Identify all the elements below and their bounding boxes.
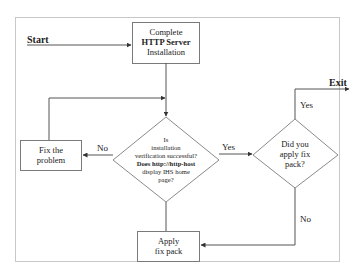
fixpack-decision-node: Did you apply fix pack? <box>268 135 322 175</box>
node-text-line: problem <box>37 156 65 166</box>
flowchart-canvas: Start Exit Complete HTTP Server Installa… <box>0 0 364 280</box>
apply-fixpack-node: Apply fix pack <box>137 231 200 262</box>
fix-problem-node: Fix the problem <box>20 140 82 171</box>
node-text-line: verification successful? <box>135 152 197 160</box>
verify-no-label: No <box>97 144 108 153</box>
node-text-line: Installation <box>147 48 185 58</box>
verify-decision-node: Is installation verification successful?… <box>113 128 219 192</box>
start-label: Start <box>27 35 49 45</box>
node-text-line: fix pack <box>155 247 183 257</box>
node-text-line: Does http://http-host <box>137 160 195 168</box>
complete-install-node: Complete HTTP Server Installation <box>132 22 200 64</box>
fixpack-no-label: No <box>300 215 311 224</box>
verify-yes-label: Yes <box>222 143 235 152</box>
node-text-line: installation <box>151 144 180 152</box>
node-text-line: Is <box>164 136 169 144</box>
node-text-line: pack? <box>285 160 305 170</box>
node-text-line: page? <box>158 176 173 184</box>
fixpack-yes-label: Yes <box>300 101 313 110</box>
node-text-line: display IHS home <box>142 168 190 176</box>
exit-label: Exit <box>329 78 347 88</box>
fixpack-no-arrow <box>201 188 295 245</box>
